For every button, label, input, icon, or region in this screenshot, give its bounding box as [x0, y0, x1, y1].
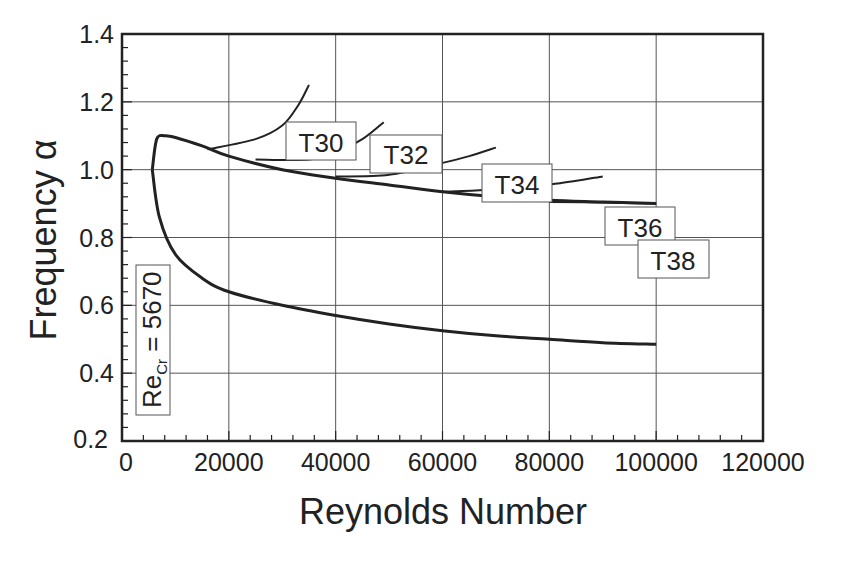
label-t32: T32 — [384, 140, 429, 170]
label-box-t34: T34 — [482, 164, 552, 202]
x-tick-label: 20000 — [194, 448, 264, 476]
label-box-t30: T30 — [286, 122, 356, 160]
label-t36: T36 — [618, 213, 663, 243]
x-tick-label: 60000 — [408, 448, 478, 476]
y-tick-label: 1.4 — [79, 20, 114, 48]
chart: 020000400006000080000100000120000 0.20.4… — [0, 0, 844, 564]
recr-main: Re — [137, 375, 167, 408]
y-axis-title: Frequency α — [23, 140, 64, 341]
label-box-t38: T38 — [638, 240, 709, 278]
label-box-t36: T36 — [605, 207, 675, 245]
x-tick-label: 80000 — [515, 448, 585, 476]
label-box-t32: T32 — [370, 135, 442, 173]
y-tick-label: 0.6 — [79, 291, 114, 319]
x-tick-labels: 020000400006000080000100000120000 — [119, 448, 805, 476]
y-tick-label: 0.2 — [73, 425, 108, 453]
recr-annotation: ReCr = 5670 — [136, 265, 170, 415]
label-t38: T38 — [651, 246, 696, 276]
y-tick-labels: 0.20.40.60.81.01.21.4 — [73, 20, 114, 453]
x-tick-label: 0 — [119, 448, 133, 476]
recr-value: = 5670 — [137, 271, 167, 358]
label-t30: T30 — [299, 128, 344, 158]
x-tick-label: 120000 — [721, 448, 804, 476]
y-tick-label: 1.2 — [79, 88, 114, 116]
label-t34: T34 — [495, 170, 540, 200]
y-tick-label: 0.8 — [79, 224, 114, 252]
y-tick-label: 0.4 — [79, 359, 114, 387]
y-tick-label: 1.0 — [79, 156, 114, 184]
curve-neutral-curve-lower-branch- — [152, 170, 656, 345]
recr-subscript: Cr — [153, 359, 170, 375]
x-axis-title: Reynolds Number — [299, 491, 587, 532]
x-tick-label: 40000 — [301, 448, 371, 476]
svg-text:ReCr = 5670: ReCr = 5670 — [137, 271, 170, 408]
x-tick-label: 100000 — [614, 448, 697, 476]
